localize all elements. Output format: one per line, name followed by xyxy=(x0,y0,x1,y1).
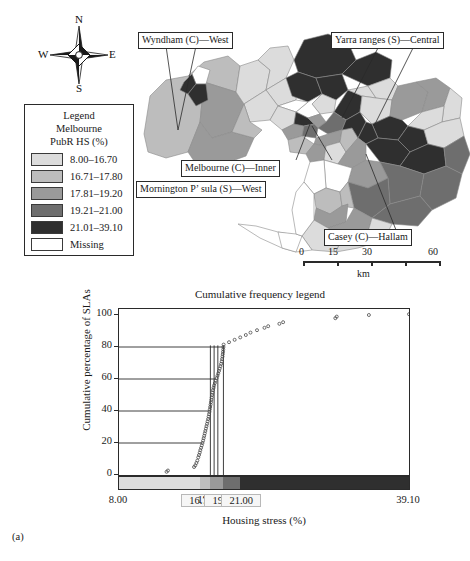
legend-item-list: 8.00–16.70 16.71–17.80 17.81–19.20 19.21… xyxy=(25,151,133,253)
legend-item: Missing xyxy=(25,236,133,253)
scalebar-unit-label: km xyxy=(357,268,370,279)
chart-data-point xyxy=(282,321,285,324)
legend-item-label: 16.71–17.80 xyxy=(70,171,123,182)
legend-title-line-3: PubR HS (%) xyxy=(25,135,133,148)
scalebar-tick-label: 0 xyxy=(299,246,304,257)
chart-class-band-segment xyxy=(119,477,200,489)
scalebar-tick xyxy=(371,261,373,266)
chart-x-tick-label: 39.10 xyxy=(390,494,426,505)
legend-title-line-2: Melbourne xyxy=(25,122,133,135)
chart-y-tick-label: 0 xyxy=(86,467,112,478)
scalebar-tick xyxy=(439,261,441,266)
legend-swatch xyxy=(31,153,63,166)
chart-x-tick-label: 8.00 xyxy=(100,494,136,505)
legend-item-label: 19.21–21.00 xyxy=(70,205,123,216)
legend-item-label: 17.81–19.20 xyxy=(70,188,123,199)
legend-item: 19.21–21.00 xyxy=(25,202,133,219)
legend-item: 21.01–39.10 xyxy=(25,219,133,236)
chart-x-axis-label: Housing stress (%) xyxy=(118,514,410,526)
legend-item-label: 8.00–16.70 xyxy=(70,154,117,165)
chart-class-band-segment xyxy=(240,477,409,489)
chart-data-point xyxy=(256,329,259,332)
map-callout-mornington: Mornington P’ sula (S)—West xyxy=(136,181,266,198)
chart-data-point xyxy=(263,326,266,329)
scalebar-tick xyxy=(337,261,339,266)
chart-series-canvas xyxy=(119,309,409,475)
map-callout-melbourne-inner: Melbourne (C)—Inner xyxy=(181,160,280,177)
chart-x-tick-label: 21.00 xyxy=(221,494,261,507)
chart-class-colour-band xyxy=(118,476,410,490)
legend-swatch xyxy=(31,221,63,234)
chart-data-point xyxy=(233,338,236,341)
compass-label-west: W xyxy=(38,49,48,60)
chart-data-point xyxy=(367,314,370,317)
chart-y-tick-label: 40 xyxy=(86,403,112,414)
map-callout-casey-hallam: Casey (C)—Hallam xyxy=(324,229,412,246)
chart-class-band-segment xyxy=(223,477,240,489)
scalebar-tick-label: 15 xyxy=(328,246,338,257)
chart-y-tick-label: 20 xyxy=(86,435,112,446)
legend-item: 16.71–17.80 xyxy=(25,168,133,185)
scalebar-tick xyxy=(405,261,407,266)
compass-rose: N S W E xyxy=(38,14,120,96)
legend-item-label: Missing xyxy=(70,239,104,250)
legend-title: Legend Melbourne PubR HS (%) xyxy=(25,105,133,148)
chart-data-point xyxy=(244,334,247,337)
legend-title-line-1: Legend xyxy=(25,109,133,122)
figure-id-label: (a) xyxy=(12,531,24,542)
scalebar-tick-label: 60 xyxy=(428,246,438,257)
scalebar-tick-label: 30 xyxy=(362,246,372,257)
chart-data-point xyxy=(239,336,242,339)
callout-leader-lines xyxy=(136,26,470,266)
compass-label-east: E xyxy=(109,49,116,60)
cumulative-frequency-chart: Cumulative frequency legend Cumulative p… xyxy=(60,288,460,553)
compass-label-south: S xyxy=(76,83,82,94)
legend-item-label: 21.01–39.10 xyxy=(70,222,123,233)
chart-data-point xyxy=(228,341,231,344)
chart-y-tick-label: 60 xyxy=(86,371,112,382)
map-callout-wyndham: Wyndham (C)—West xyxy=(138,32,233,49)
chart-data-point xyxy=(278,322,281,325)
legend-swatch xyxy=(31,187,63,200)
legend-swatch xyxy=(31,170,63,183)
legend-swatch xyxy=(31,238,63,251)
map-callout-yarra-ranges: Yarra ranges (S)—Central xyxy=(331,32,444,49)
map-legend: Legend Melbourne PubR HS (%) 8.00–16.70 … xyxy=(24,104,134,256)
chart-y-axis-label: Cumulative percentage of SLAs xyxy=(80,275,92,445)
choropleth-map: Wyndham (C)—West Yarra ranges (S)—Centra… xyxy=(136,26,470,266)
figure-panel-a: N S W E Legend Melbourne PubR HS (%) xyxy=(0,0,470,561)
compass-label-north: N xyxy=(75,14,83,25)
legend-item: 8.00–16.70 xyxy=(25,151,133,168)
chart-data-point xyxy=(249,331,252,334)
chart-class-band-segment xyxy=(200,477,210,489)
chart-title: Cumulative frequency legend xyxy=(60,288,460,300)
chart-class-band-segment xyxy=(210,477,223,489)
chart-data-point xyxy=(267,325,270,328)
chart-y-tick-label: 80 xyxy=(86,339,112,350)
scalebar-tick xyxy=(303,261,305,266)
legend-item: 17.81–19.20 xyxy=(25,185,133,202)
map-scalebar: 0 15 30 60 km xyxy=(299,246,444,282)
legend-swatch xyxy=(31,204,63,217)
chart-data-point xyxy=(408,313,410,316)
chart-y-tick-label: 100 xyxy=(86,307,112,318)
chart-plot-area xyxy=(118,308,410,476)
